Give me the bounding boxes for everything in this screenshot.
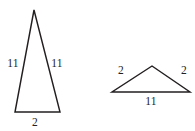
flat-triangle-right-leg-label: 2 [181,65,187,77]
tall-triangle-left-leg-label: 11 [7,58,18,70]
triangles-figure: 11 11 2 2 2 11 [0,0,195,131]
flat-triangle-base-label: 11 [145,96,156,108]
tall-triangle-right-leg-label: 11 [51,58,62,70]
triangles-canvas [0,0,195,131]
tall-triangle-base-label: 2 [32,117,38,129]
flat-triangle-left-leg-label: 2 [118,65,124,77]
